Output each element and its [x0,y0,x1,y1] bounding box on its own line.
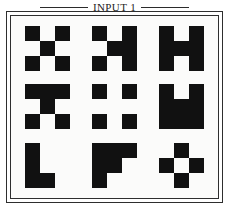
glyph-bit-filled [189,114,204,129]
glyph-bit-filled [159,84,174,99]
glyph-bit-empty [55,143,70,158]
glyph-cell [81,19,148,78]
glyph-bit-filled [40,173,55,188]
glyph-cell [14,19,81,78]
glyph-bit-empty [55,41,70,56]
glyph-t-with-feet [25,84,70,129]
figure-panel: INPUT 1 [0,0,229,210]
glyph-bit-filled [122,84,137,99]
glyph-bit-empty [174,84,189,99]
glyph-bit-filled [92,84,107,99]
glyph-solid-u [159,84,204,129]
glyph-cell [148,136,215,195]
glyph-bit-filled [40,41,55,56]
glyph-bit-filled [25,26,40,41]
glyph-bit-filled [189,84,204,99]
glyph-bit-filled [25,84,40,99]
glyph-bit-filled [159,99,174,114]
glyph-bit-filled [159,158,174,173]
glyph-bit-empty [107,99,122,114]
glyph-bit-filled [92,173,107,188]
glyph-bit-empty [40,114,55,129]
glyph-bit-filled [92,158,107,173]
glyph-bit-filled [159,114,174,129]
glyph-bit-empty [55,158,70,173]
glyph-bit-filled [25,158,40,173]
caption-rule-left [40,7,88,8]
glyph-bit-filled [122,41,137,56]
glyph-bit-empty [25,99,40,114]
glyph-bit-filled [92,56,107,71]
glyph-bit-empty [92,99,107,114]
caption-rule-right [141,7,189,8]
glyph-bit-filled [25,173,40,188]
glyph-bit-filled [189,99,204,114]
glyph-bit-filled [159,26,174,41]
glyph-bit-empty [189,143,204,158]
glyph-bit-filled [55,26,70,41]
glyph-bit-empty [107,114,122,129]
glyph-bit-filled [174,99,189,114]
glyph-bit-filled [107,41,122,56]
glyph-bit-filled [122,26,137,41]
glyph-bit-filled [40,84,55,99]
glyph-bit-filled [107,158,122,173]
glyph-bit-empty [107,26,122,41]
glyph-broken-h [92,26,137,71]
glyph-hollow-plus [159,143,204,188]
glyph-bit-filled [92,114,107,129]
glyph-x-cross [25,26,70,71]
glyph-bit-filled [159,56,174,71]
glyph-bit-empty [159,173,174,188]
glyph-bit-filled [122,114,137,129]
glyph-bit-empty [174,56,189,71]
glyph-bit-filled [25,143,40,158]
glyph-cell [14,136,81,195]
glyph-bit-empty [55,99,70,114]
glyph-bit-filled [92,143,107,158]
glyph-cell [81,136,148,195]
glyph-four-corners [92,84,137,129]
glyph-bit-filled [107,143,122,158]
glyph-bit-empty [189,173,204,188]
glyph-bit-empty [174,158,189,173]
glyph-bit-filled [55,84,70,99]
glyph-bit-empty [122,99,137,114]
glyph-bit-filled [55,56,70,71]
glyph-grid [14,19,215,195]
glyph-f-hook [92,143,137,188]
glyph-bit-filled [122,56,137,71]
glyph-cell [148,78,215,137]
glyph-bit-empty [92,41,107,56]
glyph-bit-filled [189,41,204,56]
glyph-bit-filled [25,56,40,71]
glyph-bit-empty [159,143,174,158]
glyph-bit-filled [122,143,137,158]
glyph-cell [148,19,215,78]
glyph-bit-empty [40,56,55,71]
glyph-bit-filled [159,41,174,56]
glyph-bit-filled [40,99,55,114]
glyph-bit-empty [25,41,40,56]
glyph-bit-empty [107,173,122,188]
glyph-bit-empty [122,173,137,188]
glyph-bit-filled [174,114,189,129]
glyph-bit-empty [40,158,55,173]
glyph-l-bar-with-dot [25,143,70,188]
glyph-cell [81,78,148,137]
glyph-bit-empty [55,173,70,188]
glyph-bit-filled [25,114,40,129]
glyph-bit-empty [174,26,189,41]
glyph-bit-filled [55,114,70,129]
glyph-bit-filled [189,158,204,173]
glyph-cell [14,78,81,137]
glyph-bit-filled [174,173,189,188]
glyph-bit-filled [174,143,189,158]
glyph-bit-empty [122,158,137,173]
glyph-bit-filled [189,26,204,41]
glyph-bit-empty [107,84,122,99]
glyph-bit-empty [40,26,55,41]
glyph-bit-filled [92,26,107,41]
glyph-bit-filled [174,41,189,56]
glyph-solid-h [159,26,204,71]
